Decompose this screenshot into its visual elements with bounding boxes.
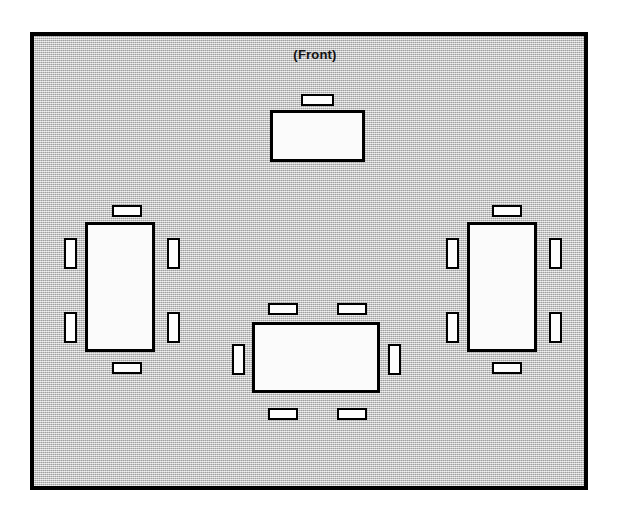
chair-left-table-right-2[interactable] [167, 312, 180, 343]
chair-right-table-left-2[interactable] [446, 312, 459, 343]
front-table[interactable] [270, 110, 365, 162]
chair-center-table-left-1[interactable] [232, 344, 245, 375]
right-table[interactable] [467, 222, 537, 352]
chair-left-table-left-2[interactable] [64, 312, 77, 343]
chair-left-table-right-1[interactable] [167, 238, 180, 269]
center-table[interactable] [252, 322, 380, 393]
left-table[interactable] [85, 222, 155, 352]
chair-right-table-right-2[interactable] [549, 312, 562, 343]
chair-center-table-bottom-2[interactable] [337, 408, 367, 420]
front-label: (Front) [262, 48, 368, 61]
chair-right-table-top-1[interactable] [492, 205, 522, 217]
chair-center-table-top-2[interactable] [337, 303, 367, 315]
chair-right-table-left-1[interactable] [446, 238, 459, 269]
chair-right-table-bottom-1[interactable] [492, 362, 522, 374]
diagram-canvas: (Front) [0, 0, 618, 511]
chair-center-table-bottom-1[interactable] [268, 408, 298, 420]
chair-left-table-bottom-1[interactable] [112, 362, 142, 374]
chair-left-table-left-1[interactable] [64, 238, 77, 269]
chair-center-table-top-1[interactable] [268, 303, 298, 315]
chair-left-table-top-1[interactable] [112, 205, 142, 217]
chair-front-table-top-1[interactable] [301, 94, 334, 106]
chair-center-table-right-1[interactable] [388, 344, 401, 375]
chair-right-table-right-1[interactable] [549, 238, 562, 269]
